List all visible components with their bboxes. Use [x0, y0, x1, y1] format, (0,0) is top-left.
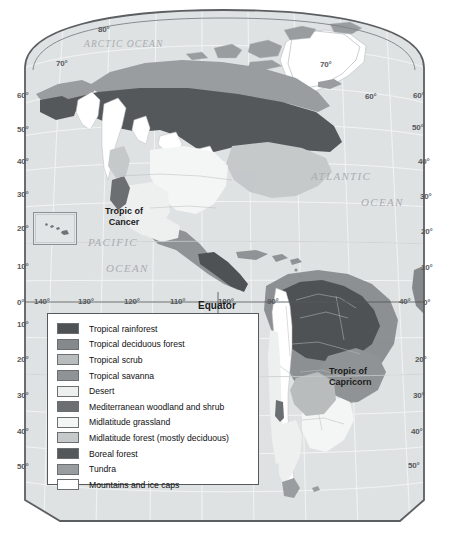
latitude-label-left: 20°	[17, 224, 29, 233]
atlantic-ocean-label-2: OCEAN	[361, 196, 404, 208]
legend-color-swatch	[57, 479, 79, 490]
pacific-ocean-label-2: OCEAN	[106, 262, 149, 274]
legend-item: Tropical savanna	[48, 368, 258, 384]
legend-item: Desert	[48, 383, 258, 399]
latitude-label-left: 10°	[17, 320, 29, 329]
tropic-of-cancer-line1: Tropic of	[105, 206, 143, 217]
latitude-label-right: 60°	[413, 91, 425, 100]
tropic-of-capricorn-line1: Tropic of	[329, 366, 372, 377]
legend-item: Boreal forest	[48, 446, 258, 462]
latitude-label-left: 30°	[17, 190, 29, 199]
latitude-label-arc: 80°	[98, 25, 110, 34]
latitude-label-right: 50°	[408, 461, 420, 470]
legend-item-label: Tropical scrub	[89, 355, 143, 365]
tropic-of-cancer-label: Tropic ofCancer	[105, 206, 143, 227]
legend-color-swatch	[57, 464, 79, 475]
latitude-label-left: 30°	[17, 391, 29, 400]
equator-label: Equator	[198, 300, 236, 311]
latitude-label-left: 50°	[17, 125, 29, 134]
latitude-label-arc: 70°	[320, 60, 332, 69]
longitude-label: 110°	[170, 297, 185, 306]
latitude-label-right: 10°	[421, 263, 433, 272]
latitude-label-right: 20°	[415, 355, 427, 364]
latitude-label-right: 30°	[420, 192, 432, 201]
biome-legend: Tropical rainforestTropical deciduous fo…	[47, 313, 259, 485]
latitude-label-right: 0°	[423, 298, 430, 307]
tropic-of-capricorn-line2: Capricorn	[329, 377, 372, 388]
pacific-ocean-label: PACIFIC	[88, 236, 138, 248]
atlantic-ocean-label: ATLANTIC	[311, 170, 371, 182]
legend-color-swatch	[57, 323, 79, 334]
latitude-label-left: 10°	[17, 262, 29, 271]
legend-item: Mediterranean woodland and shrub	[48, 399, 258, 415]
longitude-label: 140°	[34, 297, 50, 306]
legend-item: Tundra	[48, 461, 258, 477]
legend-item-label: Tropical savanna	[89, 371, 154, 381]
latitude-label-right: 20°	[421, 227, 433, 236]
latitude-label-arc: 60°	[365, 92, 377, 101]
latitude-label-right: 50°	[412, 123, 424, 132]
legend-item-label: Midlatitude forest (mostly deciduous)	[89, 433, 229, 443]
longitude-label: 90°	[267, 297, 279, 306]
legend-item-label: Desert	[89, 386, 114, 396]
longitude-label: 40°	[399, 297, 411, 306]
legend-color-swatch	[57, 417, 79, 428]
longitude-label: 120°	[124, 297, 140, 306]
latitude-label-left: 0°	[17, 298, 24, 307]
latitude-label-right: 30°	[413, 391, 425, 400]
legend-item-label: Mediterranean woodland and shrub	[89, 402, 224, 412]
legend-item: Tropical rainforest	[48, 321, 258, 337]
tropic-of-capricorn-label: Tropic ofCapricorn	[329, 366, 372, 387]
latitude-label-right: 40°	[411, 427, 423, 436]
legend-item-label: Boreal forest	[89, 449, 138, 459]
legend-item: Mountains and ice caps	[48, 477, 258, 493]
legend-color-swatch	[57, 354, 79, 365]
legend-color-swatch	[57, 370, 79, 381]
arctic-ocean-label: ARCTIC OCEAN	[84, 39, 163, 49]
legend-item: Midlatitude grassland	[48, 415, 258, 431]
latitude-label-left: 60°	[17, 91, 29, 100]
legend-item-label: Mountains and ice caps	[89, 480, 179, 490]
legend-color-swatch	[57, 448, 79, 459]
hawaii-islands	[34, 213, 78, 246]
hawaii-inset-box	[33, 212, 77, 245]
latitude-label-left: 40°	[17, 157, 29, 166]
legend-color-swatch	[57, 339, 79, 350]
longitude-label: 130°	[78, 297, 94, 306]
legend-item: Midlatitude forest (mostly deciduous)	[48, 430, 258, 446]
legend-item-label: Tropical deciduous forest	[89, 339, 185, 349]
biome-map-page: 60°50°40°30°20°10°0°10°20°30°40°50°60°50…	[0, 0, 449, 540]
legend-item-label: Midlatitude grassland	[89, 417, 170, 427]
latitude-label-arc: 70°	[56, 59, 68, 68]
latitude-label-right: 40°	[418, 157, 430, 166]
legend-color-swatch	[57, 432, 79, 443]
tropic-of-cancer-line2: Cancer	[105, 217, 143, 228]
legend-item-label: Tropical rainforest	[89, 324, 157, 334]
latitude-label-left: 20°	[17, 355, 29, 364]
legend-item: Tropical deciduous forest	[48, 337, 258, 353]
legend-item-label: Tundra	[89, 464, 116, 474]
legend-item: Tropical scrub	[48, 352, 258, 368]
legend-rows: Tropical rainforestTropical deciduous fo…	[48, 321, 258, 493]
latitude-label-left: 50°	[17, 462, 29, 471]
legend-color-swatch	[57, 401, 79, 412]
legend-color-swatch	[57, 386, 79, 397]
latitude-label-left: 40°	[17, 427, 29, 436]
